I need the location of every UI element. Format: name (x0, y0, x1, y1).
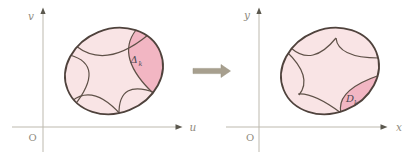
v-axis-arrowhead (40, 8, 45, 15)
transformation-figure: v u O Δk (0, 0, 417, 154)
y-axis-arrowhead (256, 8, 261, 15)
maps-to-arrow (193, 65, 231, 78)
uv-origin-label: O (28, 132, 36, 143)
xy-panel: y x O Dk (226, 8, 402, 153)
u-axis-label: u (190, 121, 197, 133)
xy-origin-label: O (246, 132, 254, 143)
uv-region: Δk (52, 13, 185, 128)
u-axis-arrowhead (176, 124, 183, 130)
v-axis-label: v (28, 10, 34, 22)
x-axis-label: x (396, 121, 402, 133)
y-axis-label: y (243, 9, 251, 21)
figure-canvas: v u O Δk (0, 0, 417, 154)
x-axis-arrowhead (381, 124, 388, 130)
uv-panel: v u O Δk (12, 8, 197, 153)
xy-region-fill (268, 13, 392, 128)
xy-region: Dk (268, 13, 392, 132)
